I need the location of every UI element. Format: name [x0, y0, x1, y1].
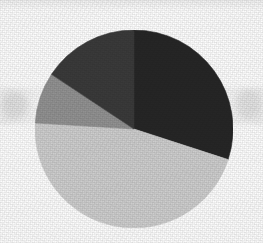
paper-top-shadow	[0, 0, 263, 10]
paper-smudge-left	[2, 92, 28, 118]
paper-smudge-right	[236, 90, 260, 118]
figure-canvas	[0, 0, 263, 243]
pie-chart	[35, 30, 233, 228]
pie-chart-svg	[35, 30, 233, 228]
pie-slice-group	[35, 30, 233, 228]
